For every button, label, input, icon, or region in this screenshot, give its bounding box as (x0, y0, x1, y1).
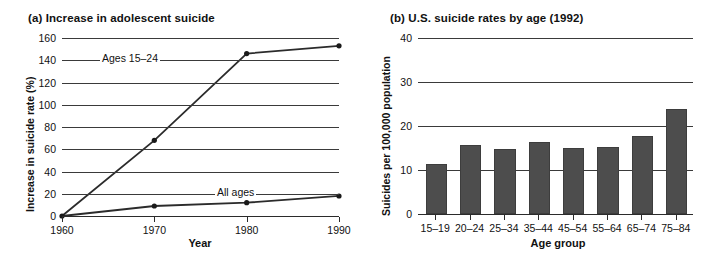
panel-a-x-tick-label: 1970 (143, 224, 166, 236)
panel-b-x-tick-label: 45–54 (558, 222, 587, 234)
panel-b-x-tick-label: 35–44 (524, 222, 553, 234)
panel-b-x-tick (435, 215, 436, 220)
panel-a-data-point (152, 203, 157, 208)
panel-a-y-tick-label: 80 (16, 121, 56, 133)
panel-a-x-axis (62, 216, 339, 218)
panel-a-x-tick-label: 1960 (50, 224, 73, 236)
panel-a-data-point (152, 138, 157, 143)
panel-b-x-tick-label: 25–34 (489, 222, 518, 234)
panel-a-data-point (244, 200, 249, 205)
panel-a-series-label-ages-15-24: Ages 15–24 (100, 52, 160, 64)
panel-b-x-tick-label: 75–84 (661, 222, 690, 234)
panel-a-x-axis-title: Year (188, 237, 211, 249)
panel-b-plot-area: 01020304015–1920–2425–3435–4445–5455–646… (418, 38, 693, 214)
panel-b-x-tick (504, 215, 505, 220)
panel-a-y-tick-label: 100 (16, 99, 56, 111)
figure-root: (a) Increase in adolescent suicide Incre… (0, 0, 725, 257)
panel-a-x-tick (154, 217, 155, 222)
panel-b-bar (494, 149, 515, 214)
panel-a-gridline (62, 83, 339, 84)
panel-b-x-axis-title: Age group (531, 237, 586, 249)
panel-b-x-tick (641, 215, 642, 220)
panel-b-bar (632, 136, 653, 214)
panel-b-x-tick (470, 215, 471, 220)
panel-a-x-tick-label: 1990 (327, 224, 350, 236)
panel-b-y-tick-label: 30 (382, 76, 412, 88)
panel-a-line-ages-15-24 (62, 46, 339, 216)
panel-a-gridline (62, 38, 339, 39)
panel-a-x-tick-label: 1980 (235, 224, 258, 236)
panel-a-x-tick (62, 217, 63, 222)
panel-a-gridline (62, 149, 339, 150)
panel-b-title: (b) U.S. suicide rates by age (1992) (390, 12, 583, 24)
panel-b-y-tick-label: 0 (382, 208, 412, 220)
panel-b-bar (563, 148, 584, 214)
panel-b-x-tick (573, 215, 574, 220)
panel-a-y-tick-label: 60 (16, 143, 56, 155)
panel-a-gridline (62, 105, 339, 106)
panel-a-x-tick (339, 217, 340, 222)
panel-a-series-label-all-ages: All ages (215, 186, 256, 198)
panel-a-data-point (336, 43, 341, 48)
panel-b-bar (666, 109, 687, 214)
panel-b-gridline (418, 38, 693, 39)
panel-b-y-tick-label: 40 (382, 32, 412, 44)
panel-b-x-tick-label: 15–19 (421, 222, 450, 234)
panel-b-x-tick (538, 215, 539, 220)
panel-a-data-point (244, 51, 249, 56)
panel-b-bar (426, 164, 447, 214)
panel-b-y-tick-label: 20 (382, 120, 412, 132)
panel-b-x-tick (607, 215, 608, 220)
panel-b-y-tick-label: 10 (382, 164, 412, 176)
panel-b-x-tick-label: 55–64 (592, 222, 621, 234)
panel-b-bar-chart: (b) U.S. suicide rates by age (1992) Sui… (362, 0, 725, 257)
panel-b-x-tick (676, 215, 677, 220)
panel-a-y-tick-label: 160 (16, 32, 56, 44)
panel-a-line-chart: (a) Increase in adolescent suicide Incre… (0, 0, 362, 257)
panel-a-x-tick (247, 217, 248, 222)
panel-b-bar (529, 142, 550, 214)
panel-a-gridline (62, 194, 339, 195)
panel-a-y-tick-label: 120 (16, 77, 56, 89)
panel-a-plot-area: 0204060801001201401601960197019801990 (62, 38, 339, 216)
panel-b-gridline (418, 82, 693, 83)
panel-b-x-tick-label: 65–74 (627, 222, 656, 234)
panel-a-y-tick-label: 20 (16, 188, 56, 200)
panel-b-gridline (418, 126, 693, 127)
panel-b-bar (597, 147, 618, 214)
panel-a-title: (a) Increase in adolescent suicide (28, 12, 215, 24)
panel-a-y-tick-label: 140 (16, 54, 56, 66)
panel-b-bar (460, 145, 481, 214)
panel-a-y-tick-label: 40 (16, 166, 56, 178)
panel-a-line-all-ages (62, 196, 339, 216)
panel-b-x-tick-label: 20–24 (455, 222, 484, 234)
panel-a-gridline (62, 127, 339, 128)
panel-a-y-tick-label: 0 (16, 210, 56, 222)
panel-a-gridline (62, 172, 339, 173)
